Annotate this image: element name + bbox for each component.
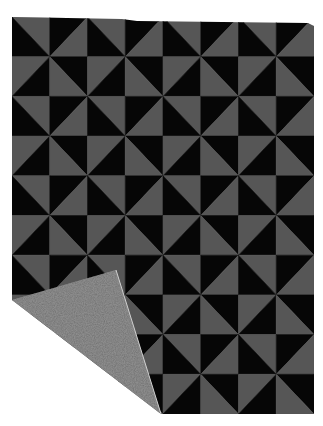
blanket-photo (0, 0, 323, 426)
